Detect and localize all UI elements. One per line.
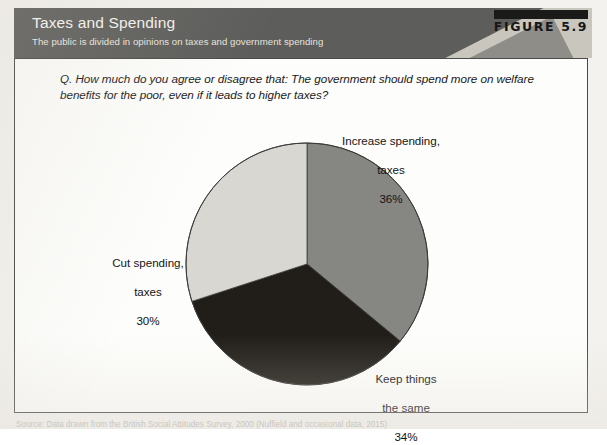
pie-chart-svg xyxy=(15,59,589,414)
pie-label-keep-value: 34% xyxy=(331,430,481,445)
pie-label-cut-value: 30% xyxy=(73,314,223,329)
pie-chart xyxy=(15,59,589,414)
pie-label-keep-things-same: Keep things the same 34% xyxy=(331,357,481,445)
source-citation: Source: Data drawn from the British Soci… xyxy=(16,420,591,429)
pie-label-cut-line1: Cut spending, xyxy=(73,256,223,271)
pie-label-cut-spending: Cut spending, taxes 30% xyxy=(73,241,223,343)
figure-number-label: FIGURE 5.9 xyxy=(492,20,590,34)
figure-number-block: FIGURE 5.9 xyxy=(492,8,590,34)
pie-label-keep-line1: Keep things xyxy=(331,372,481,387)
chart-frame: Q. How much do you agree or disagree tha… xyxy=(14,58,588,413)
pie-label-increase-line1: Increase spending, xyxy=(311,134,471,149)
pie-label-cut-line2: taxes xyxy=(73,285,223,300)
figure-header-band: Taxes and Spending The public is divided… xyxy=(14,8,592,58)
pie-label-increase-spending: Increase spending, taxes 36% xyxy=(311,119,471,221)
figure-number-rule xyxy=(494,10,588,19)
figure-title: Taxes and Spending xyxy=(32,14,175,32)
pie-label-keep-line2: the same xyxy=(331,401,481,416)
figure-subtitle: The public is divided in opinions on tax… xyxy=(32,36,323,47)
pie-label-increase-value: 36% xyxy=(311,192,471,207)
pie-label-increase-line2: taxes xyxy=(311,163,471,178)
